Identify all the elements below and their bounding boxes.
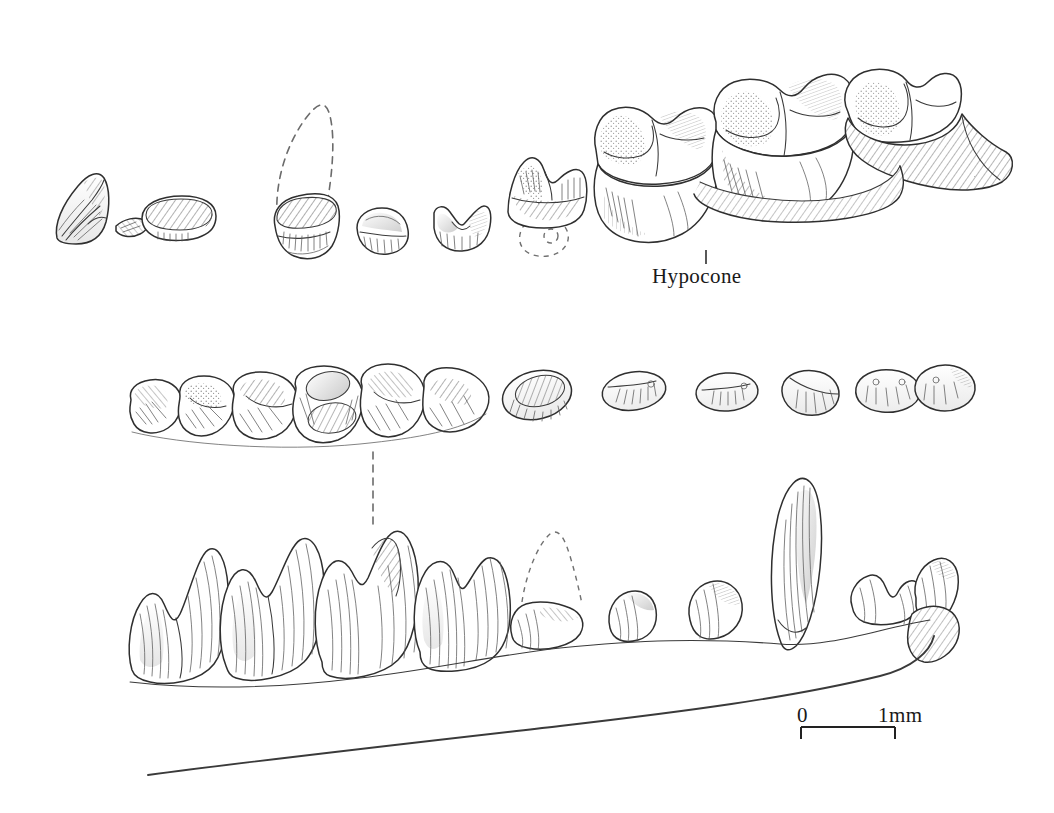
scale-bar-start-label: 0 <box>797 703 808 728</box>
tooth-fragment-upper-3 <box>274 194 339 259</box>
figure-plate: .ink{fill:none;stroke:#2f2f2f;stroke-wid… <box>0 0 1054 813</box>
scale-bar-end-label: 1mm <box>878 703 922 728</box>
occlusal-oval-crown-5 <box>856 370 920 413</box>
hypocone-label: Hypocone <box>652 264 742 289</box>
lower-premolar-2 <box>609 591 656 642</box>
occlusal-oval-crown-4 <box>782 370 839 415</box>
occlusal-oval-crown-6 <box>915 365 975 411</box>
tooth-fragment-upper-2 <box>142 196 216 241</box>
tooth-fragment-upper-4 <box>357 208 408 254</box>
dentition-illustration: .ink{fill:none;stroke:#2f2f2f;stroke-wid… <box>0 0 1054 813</box>
